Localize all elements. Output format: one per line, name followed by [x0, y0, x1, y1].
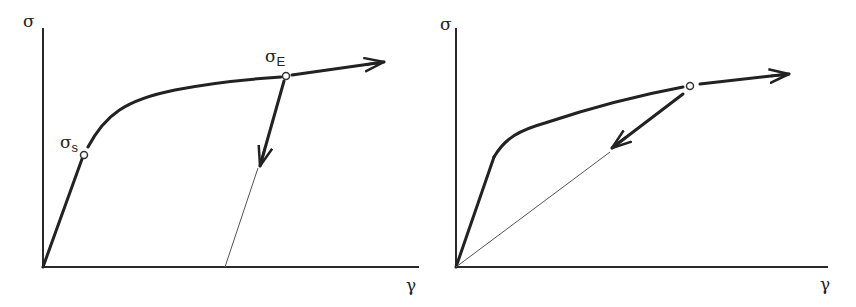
sigma-e-label: σE	[265, 46, 286, 69]
y-axis-label: σ	[440, 14, 452, 34]
unloading-line-to-origin	[456, 152, 610, 267]
hardening-curve	[88, 77, 281, 147]
hardening-curve	[494, 87, 683, 157]
unloading-point-marker	[283, 73, 290, 80]
yield-point-marker	[81, 152, 88, 159]
unloading-arrow	[260, 81, 284, 166]
sigma-s-label: σs	[60, 132, 79, 155]
elastic-line	[43, 159, 82, 267]
elastic-line	[456, 157, 494, 267]
loading-continuation-arrow	[292, 62, 384, 75]
unloading-arrow	[612, 94, 683, 148]
y-axis-label: σ	[23, 11, 35, 31]
x-axis-label: γ	[406, 275, 416, 295]
x-axis-label: γ	[820, 274, 830, 294]
unloading-point-marker	[687, 83, 694, 90]
left-panel: σ γ σs σE	[23, 11, 419, 295]
unloading-line	[225, 168, 258, 267]
loading-continuation-arrow	[700, 74, 789, 84]
stress-strain-diagrams: σ γ σs σE σ γ	[0, 0, 856, 307]
right-panel: σ γ	[440, 14, 830, 294]
